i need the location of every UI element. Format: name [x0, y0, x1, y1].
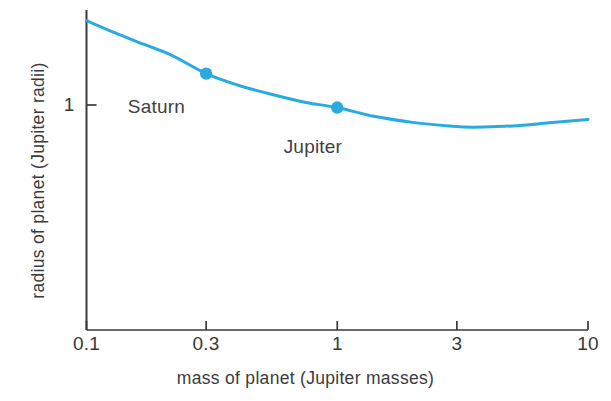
y-axis-title: radius of planet (Jupiter radii) [28, 36, 49, 326]
data-point-marker [331, 101, 343, 113]
x-tick-label: 3 [452, 333, 463, 355]
saturn-label: Saturn [128, 96, 185, 118]
x-tick-label: 1 [332, 333, 343, 355]
x-tick-label: 0.1 [73, 333, 100, 355]
data-point-marker [200, 67, 212, 79]
x-tick-label: 10 [577, 333, 599, 355]
axes [87, 10, 589, 330]
data-points [200, 67, 344, 113]
x-tick-label: 0.3 [193, 333, 220, 355]
jupiter-label: Jupiter [284, 136, 342, 158]
y-tick-label: 1 [64, 94, 75, 116]
x-axis-title: mass of planet (Jupiter masses) [177, 368, 434, 389]
chart-figure: 0.10.31310 0.51 SaturnJupiter mass of pl… [0, 0, 611, 401]
